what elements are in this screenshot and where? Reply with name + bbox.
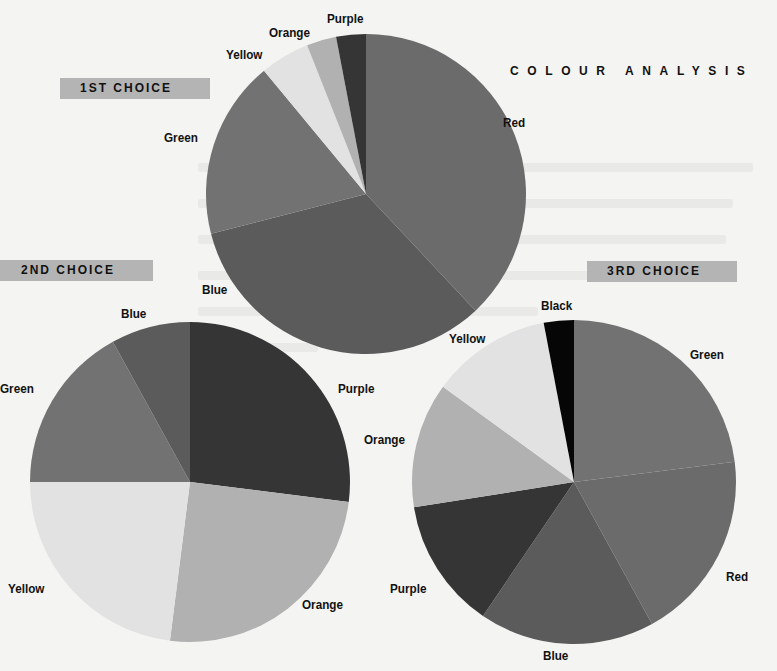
pie-slice-yellow [30,482,190,641]
slice-label-red: Red [726,569,748,584]
choice-badge-3rd: 3RD CHOICE [587,261,737,282]
page-title: COLOUR ANALYSIS [510,64,753,78]
slice-label-yellow: Yellow [449,331,485,346]
slice-label-red: Red [503,115,525,130]
pie-chart-2nd-choice [30,322,350,642]
pie-slice-purple [190,322,350,502]
slice-label-purple: Purple [390,581,426,596]
slice-label-yellow: Yellow [226,47,262,62]
pie-charts [0,0,777,671]
slice-label-orange: Orange [364,432,405,447]
slice-label-blue: Blue [202,282,227,297]
slice-label-green: Green [690,347,724,362]
slice-label-blue: Blue [121,306,146,321]
slice-label-purple: Purple [338,381,374,396]
slice-label-orange: Orange [269,25,310,40]
slice-label-black: Black [541,298,572,313]
pie-chart-3rd-choice [412,320,736,644]
pie-slice-orange [170,482,349,642]
slice-label-purple: Purple [327,11,363,26]
slice-label-orange: Orange [302,597,343,612]
pie-chart-1st-choice [206,34,526,354]
slice-label-green: Green [0,381,34,396]
pie-slice-green [574,320,735,482]
slice-label-yellow: Yellow [8,581,44,596]
choice-badge-1st: 1ST CHOICE [60,78,210,99]
choice-badge-2nd: 2ND CHOICE [0,260,153,281]
slice-label-green: Green [164,130,198,145]
slice-label-blue: Blue [543,648,568,663]
